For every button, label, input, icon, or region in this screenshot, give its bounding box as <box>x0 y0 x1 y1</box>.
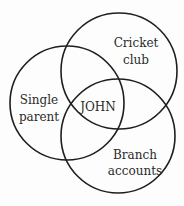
label-intersection: JOHN <box>78 100 116 114</box>
label-single: Single <box>20 93 58 107</box>
venn-diagram: Cricket club Single parent JOHN Branch a… <box>0 0 184 206</box>
circle-cricket-club <box>61 13 177 129</box>
label-parent: parent <box>19 110 59 124</box>
label-accounts: accounts <box>108 164 162 178</box>
label-cricket: Cricket <box>114 36 159 50</box>
label-branch: Branch <box>113 148 157 162</box>
label-club: club <box>123 53 149 67</box>
